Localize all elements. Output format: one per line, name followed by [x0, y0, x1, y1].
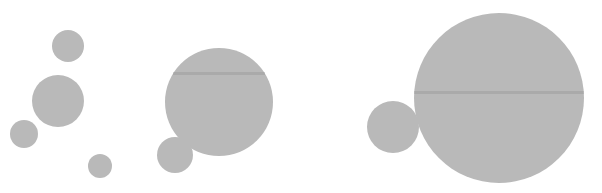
circle — [157, 137, 193, 173]
circle — [52, 30, 84, 62]
circle — [10, 120, 38, 148]
scan-streak — [173, 72, 264, 75]
circle — [414, 13, 584, 183]
circle — [367, 101, 419, 153]
circles-canvas — [0, 0, 602, 193]
scan-streak — [414, 91, 584, 94]
circle — [88, 154, 112, 178]
circle — [32, 75, 84, 127]
